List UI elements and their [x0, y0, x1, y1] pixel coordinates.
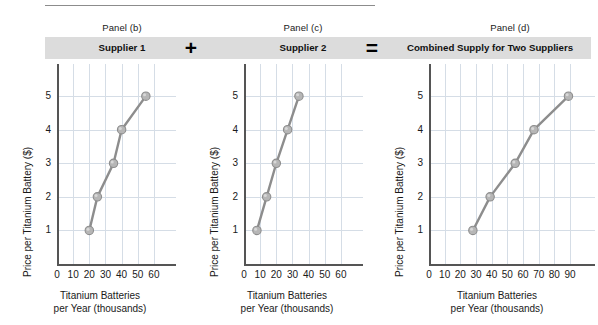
y-axis-title-d: Price per Titanium Battery ($)	[394, 147, 405, 277]
data-point-marker	[93, 193, 101, 201]
y-tick-label: 3	[224, 157, 238, 168]
x-axis-title-line2-b: per Year (thousands)	[54, 303, 147, 314]
data-point-marker	[486, 193, 494, 201]
y-tick-label: 5	[37, 90, 51, 101]
y-tick-label: 3	[409, 157, 423, 168]
data-point-highlight	[87, 228, 90, 231]
data-point-highlight	[264, 194, 267, 197]
chart-panel-b: Price per Titanium Battery ($) 123450102…	[0, 62, 190, 325]
data-point-marker	[295, 92, 303, 100]
banner-label-supplier-1: Supplier 1	[62, 37, 182, 59]
data-point-highlight	[285, 127, 288, 130]
data-point-marker	[253, 226, 261, 234]
x-axis-title-line1-d: Titanium Batteries	[457, 290, 537, 301]
data-point-marker	[109, 159, 117, 167]
data-point-marker	[530, 126, 538, 134]
data-point-highlight	[487, 194, 490, 197]
supply-curve-c	[244, 76, 369, 284]
data-point-highlight	[566, 93, 569, 96]
y-tick-label: 1	[224, 224, 238, 235]
data-point-marker	[85, 226, 93, 234]
y-axis-title-c: Price per Titanium Battery ($)	[209, 147, 220, 277]
y-tick-label: 2	[37, 191, 51, 202]
chart-panel-c: Price per Titanium Battery ($) 123450102…	[187, 62, 377, 325]
data-point-highlight	[143, 93, 146, 96]
data-point-highlight	[296, 93, 299, 96]
plot-area-c: 123450102030405060	[244, 76, 349, 264]
y-tick-label: 5	[409, 90, 423, 101]
x-axis-title-line2-c: per Year (thousands)	[241, 303, 334, 314]
plot-area-b: 123450102030405060	[57, 76, 162, 264]
top-divider-rule	[45, 5, 375, 6]
data-point-highlight	[512, 160, 515, 163]
y-tick-label: 3	[37, 157, 51, 168]
panel-caption-c: Panel (c)	[243, 22, 363, 33]
equals-symbol: =	[357, 37, 387, 59]
y-tick-label: 5	[224, 90, 238, 101]
supply-curve-d	[429, 76, 598, 284]
data-point-marker	[262, 193, 270, 201]
plot-area-d: 123450102030405060708090	[429, 76, 581, 264]
data-point-highlight	[274, 160, 277, 163]
data-point-marker	[564, 92, 572, 100]
x-axis-title-line1-c: Titanium Batteries	[247, 290, 327, 301]
banner-label-combined-supply: Combined Supply for Two Suppliers	[392, 37, 588, 59]
x-axis-title-line1-b: Titanium Batteries	[60, 290, 140, 301]
data-point-marker	[117, 126, 125, 134]
data-point-highlight	[254, 228, 257, 231]
y-tick-label: 1	[409, 224, 423, 235]
data-point-highlight	[531, 127, 534, 130]
y-tick-label: 1	[37, 224, 51, 235]
banner-label-supplier-2: Supplier 2	[243, 37, 363, 59]
data-point-marker	[272, 159, 280, 167]
panel-caption-b: Panel (b)	[62, 22, 182, 33]
plus-symbol: +	[176, 37, 206, 59]
data-point-highlight	[111, 160, 114, 163]
y-tick-label: 4	[224, 124, 238, 135]
x-axis-title-line2-d: per Year (thousands)	[451, 303, 544, 314]
y-axis-title-b: Price per Titanium Battery ($)	[22, 147, 33, 277]
data-point-marker	[469, 226, 477, 234]
data-point-highlight	[95, 194, 98, 197]
x-axis-title-d: Titanium Batteries per Year (thousands)	[417, 290, 577, 315]
data-point-marker	[142, 92, 150, 100]
x-axis-title-b: Titanium Batteries per Year (thousands)	[20, 290, 180, 315]
y-tick-label: 4	[37, 124, 51, 135]
supply-curve-b	[57, 76, 182, 284]
panel-caption-d: Panel (d)	[430, 22, 590, 33]
y-tick-label: 2	[224, 191, 238, 202]
data-point-highlight	[119, 127, 122, 130]
y-tick-label: 4	[409, 124, 423, 135]
data-point-marker	[283, 126, 291, 134]
series-line	[473, 96, 569, 230]
chart-panel-d: Price per Titanium Battery ($) 123450102…	[372, 62, 598, 325]
y-tick-label: 2	[409, 191, 423, 202]
data-point-highlight	[470, 228, 473, 231]
data-point-marker	[511, 159, 519, 167]
x-axis-title-c: Titanium Batteries per Year (thousands)	[207, 290, 367, 315]
